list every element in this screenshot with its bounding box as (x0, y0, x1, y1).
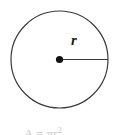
caption-formula-text: A = πr (24, 127, 57, 135)
caption-exponent: 2 (57, 127, 62, 135)
center-point-dot (56, 56, 63, 63)
area-formula-caption: A = πr2 (24, 127, 62, 135)
circle-radius-figure: r A = πr2 (0, 0, 122, 135)
caption-clip: A = πr2 (0, 127, 122, 135)
radius-label: r (71, 33, 77, 48)
circle-diagram-svg (0, 0, 122, 135)
